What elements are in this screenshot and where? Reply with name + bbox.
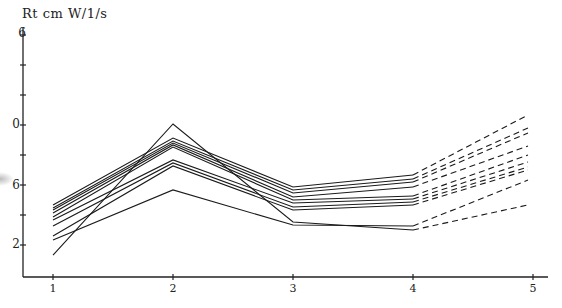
series-line-dashed (413, 128, 528, 179)
series-line-solid (53, 124, 413, 255)
axes (23, 28, 548, 277)
data-lines (53, 115, 528, 255)
series-line-dashed (413, 167, 528, 202)
line-chart (0, 0, 562, 308)
series-line-solid (53, 145, 413, 213)
series-line-solid (53, 160, 413, 220)
series-line-dashed (413, 133, 528, 182)
series-line-dashed (413, 205, 528, 230)
series-line-solid (53, 143, 413, 210)
series-line-dashed (413, 162, 528, 199)
